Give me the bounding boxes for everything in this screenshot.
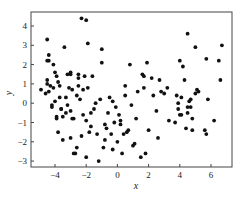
data-point [156, 136, 160, 140]
data-point [126, 128, 130, 132]
data-point [70, 88, 74, 92]
data-point [89, 125, 93, 129]
data-point [91, 74, 95, 78]
data-point [45, 82, 49, 86]
data-point [189, 97, 193, 101]
data-point [158, 78, 162, 82]
data-point [186, 105, 190, 109]
data-point [39, 88, 43, 92]
data-point [83, 74, 87, 78]
y-axis-label: y [3, 90, 14, 96]
data-point [86, 86, 90, 90]
data-point [190, 128, 194, 132]
data-point [59, 107, 63, 111]
data-point [150, 76, 154, 80]
data-point [47, 90, 51, 94]
data-point [84, 155, 88, 159]
data-point [142, 74, 146, 78]
data-point [98, 97, 102, 101]
data-point [102, 146, 106, 150]
data-point [64, 96, 68, 100]
x-tick-label: 2 [146, 170, 151, 180]
data-point [162, 92, 166, 96]
data-point [175, 94, 179, 98]
data-point [78, 97, 82, 101]
data-point [61, 138, 65, 142]
data-point [89, 111, 93, 115]
x-tick-label: 0 [115, 170, 120, 180]
data-point [184, 126, 188, 130]
y-tick-label: 0 [23, 98, 28, 108]
data-point [53, 99, 57, 103]
data-point [181, 65, 185, 69]
data-point [80, 134, 84, 138]
data-point [197, 90, 201, 94]
data-point [167, 119, 171, 123]
data-point [180, 96, 184, 100]
y-tick-label: 3 [23, 40, 28, 50]
data-point [77, 84, 81, 88]
data-point [139, 155, 143, 159]
data-point [136, 90, 140, 94]
y-tick-label: −1 [17, 118, 27, 128]
data-point [176, 107, 180, 111]
scatter-chart: −4−20246 −3−2−101234 x y [0, 0, 241, 198]
data-point [133, 142, 137, 146]
data-point [176, 101, 180, 105]
x-axis-ticks: −4−20246 [50, 164, 214, 180]
data-point [47, 53, 51, 57]
x-tick-label: −2 [81, 170, 91, 180]
data-point [183, 78, 187, 82]
data-point [114, 105, 118, 109]
data-point [144, 152, 148, 156]
data-point [70, 117, 74, 121]
data-point [111, 148, 115, 152]
data-point [105, 126, 109, 130]
data-point [55, 117, 59, 121]
data-point [123, 84, 127, 88]
data-point [130, 103, 134, 107]
data-point [119, 123, 123, 127]
x-tick-label: −4 [50, 170, 60, 180]
data-point [45, 38, 49, 42]
data-point [63, 45, 67, 49]
data-point [147, 128, 151, 132]
y-tick-label: 1 [23, 79, 28, 89]
data-point [50, 105, 54, 109]
data-point [75, 146, 79, 150]
data-point [204, 132, 208, 136]
data-point [217, 59, 221, 63]
data-point [64, 111, 68, 115]
data-point [122, 132, 126, 136]
data-point [84, 119, 88, 123]
data-point [142, 86, 146, 90]
data-point [53, 70, 57, 74]
data-point [58, 96, 62, 100]
data-point [52, 63, 56, 67]
x-tick-label: 4 [178, 170, 183, 180]
data-point [69, 72, 73, 76]
data-point [203, 128, 207, 132]
data-point [66, 103, 70, 107]
data-point [111, 99, 115, 103]
data-point [69, 136, 73, 140]
data-point [97, 159, 101, 163]
data-point [178, 113, 182, 117]
y-tick-label: 4 [23, 21, 28, 31]
data-point [116, 140, 120, 144]
data-point [186, 32, 190, 36]
data-point [94, 101, 98, 105]
data-point [81, 113, 85, 117]
data-point [52, 86, 56, 90]
data-point [77, 76, 81, 80]
data-point [206, 97, 210, 101]
data-point [100, 47, 104, 51]
data-point [72, 152, 76, 156]
data-point [134, 117, 138, 121]
x-tick-label: 6 [209, 170, 214, 180]
data-point [190, 117, 194, 121]
data-point [75, 94, 79, 98]
data-point [103, 123, 107, 127]
data-point [92, 107, 96, 111]
data-point [212, 119, 216, 123]
